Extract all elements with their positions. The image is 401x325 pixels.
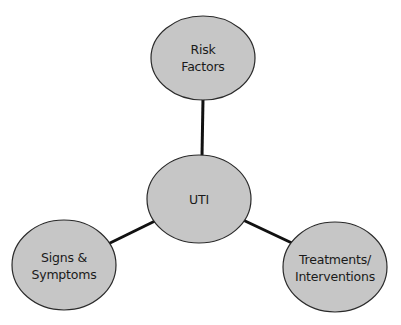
label-signs-symptoms: Signs & Symptoms bbox=[12, 222, 116, 310]
edge-center-to-risk-factors bbox=[202, 99, 203, 156]
label-uti: UTI bbox=[147, 155, 251, 243]
label-treatments-interventions: Treatments/ Interventions bbox=[283, 224, 387, 312]
label-risk-factors: Risk Factors bbox=[151, 22, 255, 94]
